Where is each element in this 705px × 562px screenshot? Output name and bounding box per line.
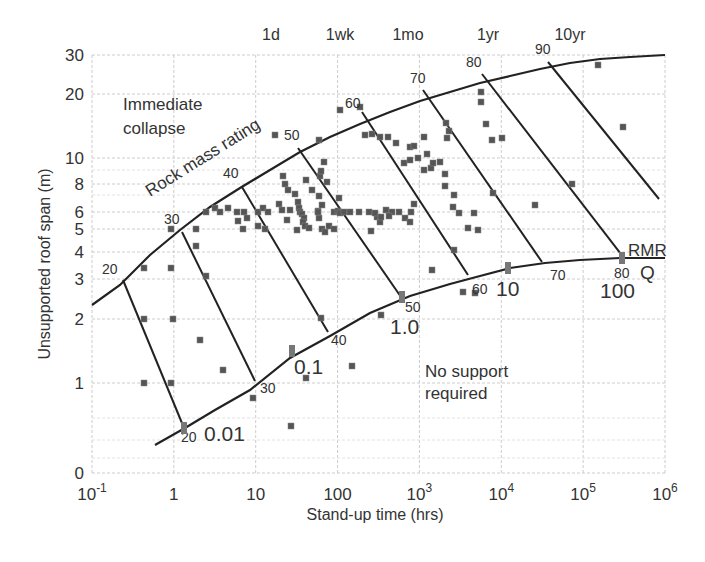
case-point [415,155,421,161]
case-point [244,215,250,221]
case-point [451,247,457,253]
case-point [309,187,315,193]
case-point [368,228,374,234]
case-point [442,183,448,189]
rmr-lines [123,62,659,428]
no-support-label: No support [425,362,508,381]
rmr-top-label: 40 [223,165,239,181]
rmr-axis-label: RMR [628,241,667,260]
q-tick-mark [505,262,511,274]
case-point [321,159,327,165]
case-point [407,219,413,225]
q-axis-label: Q [640,262,655,283]
rmr-top-label: 80 [466,54,482,70]
case-point [490,190,496,196]
case-point [347,209,353,215]
case-point [193,226,199,232]
case-point [369,131,375,137]
q-value-label: 0.1 [294,355,323,378]
case-point [478,99,484,105]
case-point [282,181,288,187]
case-point [331,226,337,232]
case-point [569,181,575,187]
case-point [315,209,321,215]
q-value-label: 1.0 [390,315,419,338]
case-point [456,210,462,216]
chart-labels: 10-1110100103104105106012345681020301d1w… [65,26,678,504]
rmr-bottom-label: 60 [472,281,488,297]
x-tick-label: 100 [323,485,351,504]
case-point [234,209,240,215]
case-point [265,209,271,215]
x-axis-label: Stand-up time (hrs) [307,506,444,523]
support-chart: 10-1110100103104105106012345681020301d1w… [0,0,705,562]
rmr-top-label: 70 [410,70,426,86]
case-point [407,157,413,163]
case-point [386,213,392,219]
case-point [284,217,290,223]
case-point [478,89,484,95]
rmr-top-label: 30 [164,211,180,227]
case-point [303,177,309,183]
time-label: 1wk [326,26,355,43]
case-point [197,337,203,343]
case-point [393,140,399,146]
case-point [442,171,448,177]
x-tick-label: 10 [246,485,265,504]
y-tick-label: 0 [75,464,84,483]
case-point [319,202,325,208]
case-point [372,210,378,216]
case-point [241,209,247,215]
case-point [220,367,226,373]
x-tick-label: 103 [407,481,433,504]
case-point [168,380,174,386]
y-tick-label: 6 [75,203,84,222]
case-point [285,187,291,193]
case-point [465,225,471,231]
case-point [475,227,481,233]
case-point [318,315,324,321]
case-point [287,207,293,213]
case-point [288,423,294,429]
y-tick-label: 20 [65,85,84,104]
case-point [362,132,368,138]
case-point [294,227,300,233]
case-point [451,192,457,198]
x-tick-label: 1 [169,485,178,504]
y-tick-label: 4 [75,243,84,262]
case-point [170,316,176,322]
case-point [411,201,417,207]
x-tick-label: 105 [570,481,596,504]
case-point [324,179,330,185]
case-point [276,201,282,207]
case-point [483,121,489,127]
case-point [421,167,427,173]
lower-boundary-curve [155,258,665,445]
case-point [424,151,430,157]
y-tick-label: 3 [75,270,84,289]
case-point [532,202,538,208]
y-tick-label: 2 [75,310,84,329]
case-point [411,143,417,149]
case-point [620,124,626,130]
y-tick-label: 30 [65,46,84,65]
case-point [499,135,505,141]
case-point [489,137,495,143]
case-point [595,62,601,68]
case-point [430,160,436,166]
case-point [378,214,384,220]
rmr-bottom-label: 70 [550,267,566,283]
x-tick-label: 104 [488,481,514,504]
y-tick-label: 1 [75,374,84,393]
case-point [235,218,241,224]
q-tick-mark [399,291,405,303]
y-axis-label: Unsupported roof span (m) [36,168,53,359]
case-point [203,273,209,279]
rmr-top-label: 60 [345,95,361,111]
case-point [316,137,322,143]
case-point [318,168,324,174]
x-tick-label: 106 [652,481,678,504]
case-point [306,225,312,231]
case-point [471,210,477,216]
case-point [429,267,435,273]
